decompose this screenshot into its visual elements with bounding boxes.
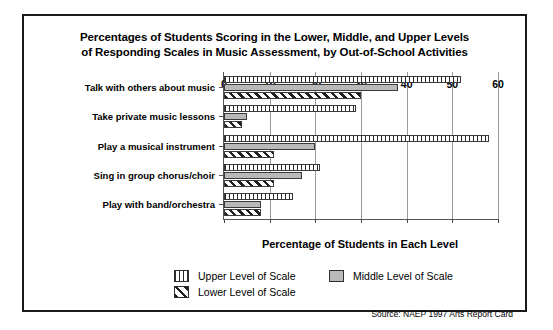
x-axis-title: Percentage of Students in Each Level — [223, 238, 497, 250]
bar-upper — [224, 105, 356, 112]
x-tick-0 — [224, 219, 225, 223]
bar-middle — [224, 143, 315, 150]
bar-lower — [224, 180, 274, 187]
legend-item-upper: Upper Level of Scale — [174, 270, 295, 282]
chart-title-line-1: Percentages of Students Scoring in the L… — [24, 30, 525, 45]
source-note: Source: NAEP 1997 Arts Report Card — [371, 309, 513, 319]
x-tick-label-60: 60 — [492, 78, 504, 90]
category-label: Take private music lessons — [92, 111, 215, 122]
upper-level-swatch-icon — [174, 270, 189, 282]
middle-level-swatch-icon — [329, 270, 344, 282]
bar-upper — [224, 76, 461, 83]
legend-item-middle: Middle Level of Scale — [329, 270, 453, 282]
legend-label-lower: Lower Level of Scale — [198, 286, 295, 298]
legend-item-lower: Lower Level of Scale — [174, 286, 295, 298]
legend-label-middle: Middle Level of Scale — [353, 270, 453, 282]
x-tick-40 — [407, 219, 408, 223]
bar-upper — [224, 135, 489, 142]
category-label: Play a musical instrument — [98, 140, 215, 151]
gridline-40 — [407, 72, 408, 219]
x-tick-30 — [361, 219, 362, 223]
gridline-50 — [452, 72, 453, 219]
gridline-30 — [361, 72, 362, 219]
bar-middle — [224, 113, 247, 120]
bar-upper — [224, 164, 320, 171]
x-tick-20 — [315, 219, 316, 223]
chart-title: Percentages of Students Scoring in the L… — [24, 30, 525, 60]
category-label: Talk with others about music — [85, 81, 215, 92]
x-tick-10 — [270, 219, 271, 223]
bar-middle — [224, 201, 261, 208]
category-label: Sing in group chorus/choir — [94, 169, 215, 180]
figure-frame: Percentages of Students Scoring in the L… — [22, 14, 527, 312]
bar-lower — [224, 209, 261, 216]
bar-lower — [224, 92, 361, 99]
gridline-60 — [498, 72, 499, 219]
legend-label-upper: Upper Level of Scale — [198, 270, 295, 282]
x-tick-60 — [498, 219, 499, 223]
lower-level-swatch-icon — [174, 286, 189, 298]
bar-lower — [224, 121, 242, 128]
category-label: Play with band/orchestra — [103, 199, 215, 210]
bar-middle — [224, 172, 302, 179]
x-tick-50 — [452, 219, 453, 223]
bar-middle — [224, 84, 398, 91]
bar-upper — [224, 193, 293, 200]
chart-title-line-2: of Responding Scales in Music Assessment… — [24, 45, 525, 60]
bar-lower — [224, 151, 274, 158]
plot-area: 0102030405060Talk with others about musi… — [223, 72, 498, 220]
